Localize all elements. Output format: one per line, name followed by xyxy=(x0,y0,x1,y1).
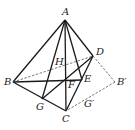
edge-AB xyxy=(13,20,65,82)
edge-AC xyxy=(65,20,66,111)
label-E: E xyxy=(84,74,91,84)
label-Bp: B′ xyxy=(117,77,127,87)
label-A: A xyxy=(62,7,69,17)
edge-AD xyxy=(65,20,93,56)
label-B: B xyxy=(4,77,11,87)
label-Gp: G′ xyxy=(84,99,94,109)
label-G: G xyxy=(36,102,44,112)
edge-AE xyxy=(65,20,82,80)
label-D: D xyxy=(96,47,104,57)
solid-edges xyxy=(13,20,93,111)
label-F: F xyxy=(68,80,75,90)
geometry-figure xyxy=(0,0,135,130)
label-H: H xyxy=(55,57,64,67)
label-C: C xyxy=(62,114,70,124)
edge-DBp xyxy=(93,56,115,82)
